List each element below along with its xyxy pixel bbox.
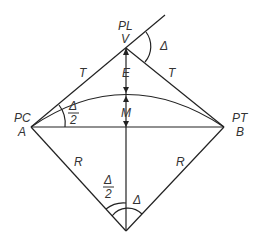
pc-label: PC bbox=[14, 111, 31, 125]
radius-right-label: R bbox=[176, 155, 185, 169]
pc-angle-num: Δ bbox=[68, 99, 77, 113]
a-label: A bbox=[17, 125, 26, 139]
pl-label: PL bbox=[118, 19, 133, 33]
radius-right-line bbox=[126, 127, 224, 231]
center-half-angle-arc bbox=[106, 203, 126, 209]
external-label: E bbox=[122, 66, 131, 80]
back-tangent-line bbox=[31, 15, 165, 127]
m-arrow-top bbox=[123, 96, 129, 102]
central-angle-label: Δ bbox=[132, 193, 141, 207]
e-arrow-bottom bbox=[123, 87, 129, 93]
radius-left-label: R bbox=[74, 155, 83, 169]
deflection-angle-arc bbox=[145, 32, 151, 62]
center-half-angle-num: Δ bbox=[103, 173, 112, 187]
middle-ordinate-label: M bbox=[121, 106, 131, 120]
deflection-angle-label: Δ bbox=[159, 39, 168, 53]
curve-diagram: PL V PC A PT B T T E M R R Δ Δ 2 Δ 2 Δ bbox=[0, 0, 259, 243]
center-half-angle-den: 2 bbox=[104, 187, 112, 201]
b-label: B bbox=[236, 125, 244, 139]
m-arrow-bottom bbox=[123, 121, 129, 127]
forward-tangent-line bbox=[126, 48, 224, 127]
tangent-left-label: T bbox=[79, 66, 88, 80]
pc-angle-den: 2 bbox=[69, 113, 77, 127]
pt-label: PT bbox=[232, 111, 249, 125]
central-angle-arc bbox=[112, 208, 142, 216]
v-label: V bbox=[121, 32, 130, 46]
tangent-right-label: T bbox=[168, 66, 177, 80]
